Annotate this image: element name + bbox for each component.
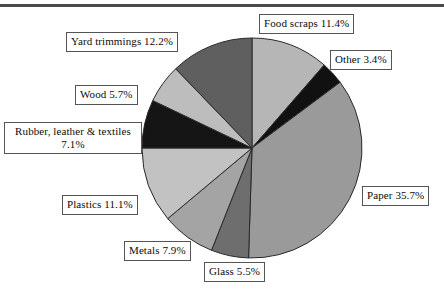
callout-wood-text: Wood 5.7% bbox=[80, 88, 133, 100]
callout-yard-trimmings-text: Yard trimmings 12.2% bbox=[71, 35, 173, 47]
callout-plastics: Plastics 11.1% bbox=[62, 195, 138, 215]
callout-other: Other 3.4% bbox=[330, 50, 392, 70]
callout-rubber-line2: 7.1% bbox=[61, 138, 84, 150]
callout-paper-text: Paper 35.7% bbox=[367, 189, 424, 201]
callout-metals-text: Metals 7.9% bbox=[129, 244, 186, 256]
callout-other-text: Other 3.4% bbox=[335, 53, 387, 65]
pie-chart-figure: Food scraps 11.4% Other 3.4% Paper 35.7%… bbox=[0, 0, 444, 291]
callout-rubber-line1: Rubber, leather & textiles bbox=[15, 125, 131, 137]
callout-glass-text: Glass 5.5% bbox=[209, 265, 260, 277]
callout-paper: Paper 35.7% bbox=[362, 186, 429, 206]
callout-rubber-leather-textiles: Rubber, leather & textiles 7.1% bbox=[4, 122, 142, 154]
callout-glass: Glass 5.5% bbox=[204, 262, 265, 282]
pie-slices bbox=[142, 38, 362, 258]
callout-food-scraps: Food scraps 11.4% bbox=[259, 14, 354, 34]
callout-plastics-text: Plastics 11.1% bbox=[67, 198, 133, 210]
callout-wood: Wood 5.7% bbox=[75, 85, 138, 105]
callout-food-scraps-text: Food scraps 11.4% bbox=[264, 17, 349, 29]
callout-yard-trimmings: Yard trimmings 12.2% bbox=[66, 32, 178, 52]
callout-metals: Metals 7.9% bbox=[124, 241, 191, 261]
